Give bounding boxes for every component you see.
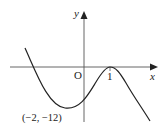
minimum-point-label: (−2, −12) [22, 112, 62, 124]
x-axis-label: x [149, 70, 155, 82]
y-axis-label: y [73, 7, 79, 19]
x-tick-label-1: 1 [107, 70, 113, 82]
function-curve [25, 48, 150, 121]
graph-canvas: y x O 1 (−2, −12) [0, 0, 168, 132]
origin-label: O [74, 69, 82, 81]
y-axis-arrow-icon [81, 11, 88, 19]
